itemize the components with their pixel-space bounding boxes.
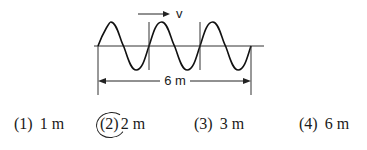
option-3[interactable]: (3)3 m [194,115,244,133]
option-4-value: 6 m [325,115,349,132]
option-3-value: 3 m [220,115,244,132]
dimension-label: 6 m [164,73,186,88]
option-3-number: (3) [194,115,213,133]
option-2-number: (2) [100,115,119,133]
option-1[interactable]: (1)1 m [14,115,64,133]
option-2[interactable]: (2)2 m [100,115,145,133]
option-1-value: 1 m [40,115,64,132]
option-4-number: (4) [299,115,318,133]
option-4[interactable]: (4)6 m [299,115,349,133]
velocity-arrow-icon [138,11,170,17]
wave-diagram: v 6 m [0,0,367,100]
velocity-label: v [176,6,183,21]
option-1-number: (1) [14,115,33,133]
